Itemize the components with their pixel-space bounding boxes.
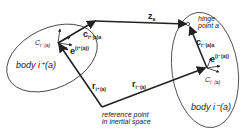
label-r-left: ri⁺(a): [92, 82, 106, 92]
label-e-left: e(i⁺(a)): [70, 46, 89, 56]
label-z-a: za: [148, 12, 155, 22]
label-reference-point: reference pointin inertial space: [102, 111, 151, 125]
label-body-left: body i⁺(a): [16, 61, 56, 70]
hinge-point: [186, 22, 189, 25]
label-centroid-left: Ci⁺(a): [35, 39, 50, 48]
vector-z-a: [95, 21, 186, 24]
label-c-left: ci⁺(a)a: [83, 30, 101, 40]
label-centroid-right: Ci⁻(a): [205, 76, 220, 85]
label-hinge: hingepoint a: [198, 15, 219, 29]
label-e-right: e(i⁻(a)): [210, 54, 229, 64]
vector-r-right: [102, 68, 205, 107]
label-r-right: ri⁻(a): [132, 80, 146, 90]
label-body-right: body i⁻(a): [191, 103, 231, 112]
label-c-right: ci⁻(a)a: [196, 38, 214, 48]
